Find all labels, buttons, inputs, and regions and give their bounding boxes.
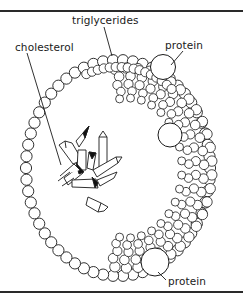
protein-top-leader (171, 51, 183, 65)
triglyceride-bead (190, 120, 200, 130)
phospholipid-bead (21, 151, 32, 162)
triglyceride-bead (178, 157, 186, 165)
lipoprotein-diagram: triglycerides cholesterol protein protei… (0, 0, 243, 294)
triglyceride-bead (174, 220, 183, 229)
triglyceride-bead (198, 146, 208, 156)
triglyceride-bead (165, 230, 174, 239)
cholesterol-crystals (58, 126, 122, 212)
triglyceride-bead (116, 95, 124, 103)
triglyceride-bead (180, 209, 189, 218)
label-cholesterol: cholesterol (15, 42, 74, 53)
triglycerides-leader (104, 27, 112, 56)
triglyceride-bead (191, 221, 201, 231)
triglyceride-bead (110, 262, 120, 272)
protein-globule-bottom (141, 248, 169, 276)
label-protein-bottom: protein (168, 276, 206, 287)
triglyceride-bead (171, 198, 179, 206)
label-triglycerides: triglycerides (72, 15, 139, 26)
protein-globule-middle (158, 123, 182, 147)
triglyceride-bead (165, 210, 173, 218)
triglyceride-bead (167, 84, 176, 93)
triglyceride-bead (195, 133, 205, 143)
triglyceride-bead (148, 227, 156, 235)
triglyceride-bead (134, 240, 143, 249)
phospholipid-bead (29, 117, 40, 128)
phospholipid-bead (21, 174, 32, 185)
label-protein-top: protein (165, 40, 203, 51)
triglyceride-bead (177, 98, 187, 108)
triglyceride-bead (114, 72, 124, 82)
triglyceride-bead (116, 233, 124, 241)
triglyceride-bead (145, 236, 154, 245)
phospholipid-bead (25, 197, 36, 208)
triglyceride-bead (135, 81, 144, 90)
triglyceride-bead (178, 171, 186, 179)
triglyceride-bead (148, 101, 156, 109)
triglyceride-bead (197, 209, 207, 219)
phospholipid-bead (25, 128, 36, 139)
triglyceride-bead (176, 185, 184, 193)
triglyceride-bead (127, 234, 135, 242)
phospholipid-bead (34, 218, 45, 229)
triglyceride-bead (205, 183, 215, 193)
triglyceride-bead (183, 146, 192, 155)
triglyceride-bead (137, 232, 145, 240)
phospholipid-bead (20, 162, 31, 173)
triglyceride-bead (157, 109, 165, 117)
triglyceride-bead (159, 101, 168, 110)
triglyceride-bead (157, 220, 165, 228)
triglyceride-bead (131, 255, 141, 265)
triglyceride-bead (117, 87, 126, 96)
triglyceride-bead (127, 94, 135, 102)
phospholipid-bead (23, 186, 34, 197)
triglyceride-bead (137, 96, 145, 104)
triglyceride-bead (184, 109, 194, 119)
protein-globule-top (151, 55, 176, 80)
triglyceride-bead (167, 110, 176, 119)
phospholipid-bead (29, 208, 40, 219)
triglyceride-bead (202, 197, 212, 207)
triglyceride-bead (186, 197, 195, 206)
phospholipid-bead (23, 139, 34, 150)
